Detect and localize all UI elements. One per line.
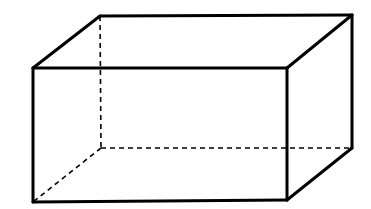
hidden-edges — [33, 16, 352, 202]
edge-back-top-left-to-back-top-right — [100, 15, 352, 16]
rectangular-prism-figure — [0, 0, 371, 209]
edge-back-top-right-to-front-top-right — [287, 15, 352, 68]
visible-edges — [33, 15, 352, 202]
hidden-edge-back-bottom-left-to-front-bottom-left — [33, 148, 101, 202]
edge-front-bottom-right-to-front-bottom-left — [33, 200, 287, 202]
edge-back-bottom-right-to-front-bottom-right — [287, 148, 352, 200]
prism-diagram — [0, 0, 371, 209]
edge-front-top-left-to-back-top-left — [33, 16, 100, 68]
hidden-edge-back-top-left-to-back-bottom-left — [100, 16, 101, 148]
